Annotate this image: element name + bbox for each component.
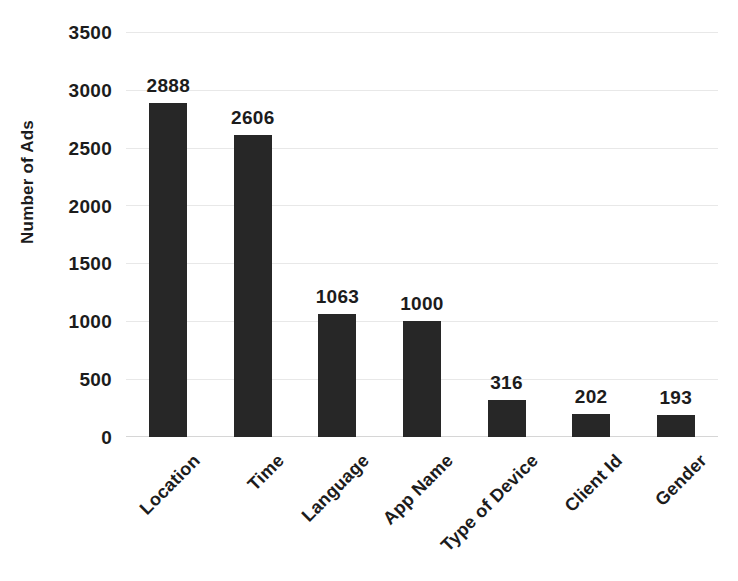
bar[interactable] xyxy=(572,414,610,437)
y-axis-tick-3000: 3000 xyxy=(69,80,112,99)
bar-slot: 2888 xyxy=(126,32,211,437)
bar-value-label: 2606 xyxy=(231,108,274,127)
x-axis-tick-label: Location xyxy=(136,451,204,519)
bar-slot: 1000 xyxy=(380,32,465,437)
x-axis-tick-label: Client Id xyxy=(562,451,627,516)
bar-value-label: 193 xyxy=(659,388,692,407)
x-axis-tick-label: Gender xyxy=(652,451,711,510)
bar-value-label: 316 xyxy=(490,373,523,392)
bar-slot: 2606 xyxy=(211,32,296,437)
y-axis-tick-1000: 1000 xyxy=(69,312,112,331)
bar-value-label: 2888 xyxy=(147,76,190,95)
y-axis-tick-2000: 2000 xyxy=(69,196,112,215)
bar[interactable] xyxy=(149,103,187,437)
x-axis-tick-label: Time xyxy=(245,451,288,494)
bar-value-label: 202 xyxy=(575,387,608,406)
y-axis-tick-500: 500 xyxy=(79,370,112,389)
bar[interactable] xyxy=(318,314,356,437)
x-axis-tick-label: App Name xyxy=(380,451,457,528)
bar-value-label: 1000 xyxy=(400,294,443,313)
y-axis-tick-3500: 3500 xyxy=(69,23,112,42)
x-axis-tick-labels: LocationTimeLanguageApp NameType of Devi… xyxy=(126,437,718,581)
y-axis-tick-0: 0 xyxy=(101,428,112,447)
plot-area: 2888260610631000316202193 xyxy=(126,32,718,437)
bar[interactable] xyxy=(488,400,526,437)
bar[interactable] xyxy=(234,135,272,437)
bar[interactable] xyxy=(403,321,441,437)
y-axis-tick-labels: 3500 3000 2500 2000 1500 1000 500 0 xyxy=(46,32,112,437)
bar-slot: 193 xyxy=(633,32,718,437)
bar-chart: Number of Ads 3500 3000 2500 2000 1500 1… xyxy=(0,0,738,581)
y-axis-tick-2500: 2500 xyxy=(69,138,112,157)
y-axis-tick-1500: 1500 xyxy=(69,254,112,273)
bar-slot: 202 xyxy=(549,32,634,437)
bar-slot: 1063 xyxy=(295,32,380,437)
bar-slot: 316 xyxy=(464,32,549,437)
bar[interactable] xyxy=(657,415,695,437)
bar-value-label: 1063 xyxy=(316,287,359,306)
y-axis-title: Number of Ads xyxy=(18,92,38,272)
x-axis-tick-label: Language xyxy=(298,451,373,526)
